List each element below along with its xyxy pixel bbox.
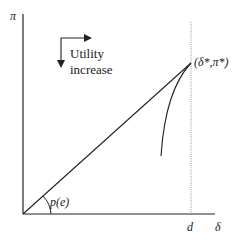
arrow-right-head	[84, 34, 92, 42]
point-label: (δ*,π*)	[194, 55, 229, 69]
utility-text-line1: Utility	[70, 46, 104, 61]
y-axis-label: π	[10, 9, 17, 23]
arrow-down-head	[57, 60, 65, 68]
x-tick-label-d: d	[187, 220, 194, 234]
x-axis-label: δ	[215, 220, 221, 234]
utility-text-line2: increase	[70, 62, 113, 77]
diagram: π δ d (δ*,π*) p(e) Utility increase	[0, 0, 244, 243]
ray-line	[23, 63, 191, 214]
angle-label: p(e)	[49, 195, 69, 209]
